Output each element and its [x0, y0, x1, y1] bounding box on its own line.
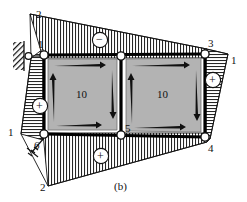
- bottom-shear-field: [43, 133, 207, 186]
- node-label-3: 3: [208, 38, 214, 49]
- right-field-sign: +: [209, 74, 216, 86]
- node-circle-1: [40, 51, 48, 59]
- node-circle-6: [40, 130, 48, 138]
- member-label-1-left: 1: [8, 127, 14, 138]
- node-label-2-bottom: 2: [40, 182, 46, 193]
- node-label-6: 6: [34, 140, 40, 151]
- node-circle-3: [201, 50, 209, 58]
- right-shear-field: [206, 49, 228, 139]
- node-label-4: 4: [208, 143, 214, 154]
- node-label-1: 1: [38, 39, 44, 50]
- top-shear-field: [30, 14, 207, 58]
- top-field-sign: −: [96, 33, 103, 45]
- member-label-1-right: 1: [231, 55, 237, 66]
- left-panel-label: 10: [76, 89, 87, 100]
- node-circle-5: [117, 131, 125, 139]
- figure-caption: (b): [114, 180, 127, 192]
- node-circle-mid-top: [117, 52, 125, 60]
- left-field-sign: +: [36, 100, 43, 112]
- node-label-5: 5: [125, 123, 131, 134]
- node-circle-4: [201, 133, 209, 141]
- node-label-2-top: 2: [36, 9, 42, 20]
- bottom-field-sign: +: [97, 150, 104, 162]
- shear-panel-figure: 2 1 3 1 1 6 5 4 2 10 10 − + + + (b): [0, 0, 247, 202]
- right-panel-label: 10: [157, 89, 168, 100]
